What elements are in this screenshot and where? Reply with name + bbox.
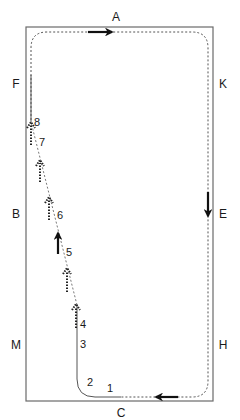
diagonal-path [31,122,77,305]
dressage-arena-diagram: A K E H C M B F 1 2 3 4 5 6 7 8 [0,0,240,420]
dotted-arrow-icon [72,304,80,328]
letter-c: C [117,406,126,420]
marker-5: 5 [66,246,72,258]
marker-3: 3 [80,338,86,350]
dotted-arrow-icon [63,268,71,292]
letter-b: B [12,207,20,221]
marker-7: 7 [39,136,45,148]
letter-m: M [11,338,21,352]
marker-2: 2 [87,376,93,388]
dotted-arrow-icon [45,197,53,220]
marker-8: 8 [34,116,40,128]
marker-6: 6 [57,209,63,221]
letter-h: H [219,338,228,352]
dotted-arrow-icon [36,160,44,182]
letter-a: A [112,10,120,24]
marker-1: 1 [107,382,113,394]
letter-e: E [219,207,227,221]
letter-k: K [219,77,227,91]
marker-4: 4 [80,318,86,330]
letter-f: F [12,77,19,91]
